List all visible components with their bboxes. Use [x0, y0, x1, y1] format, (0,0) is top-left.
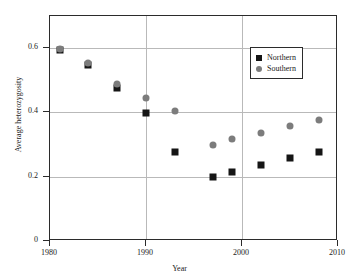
data-point-northern — [287, 154, 294, 161]
y-tick-label: 0 — [34, 236, 38, 244]
legend-item-label: Southern — [267, 64, 296, 73]
circle-marker-icon — [256, 66, 262, 72]
gridline-vertical — [242, 16, 243, 239]
data-point-southern — [258, 130, 265, 137]
chart-figure: 00.20.40.6 1980199020002010 Average hete… — [0, 0, 359, 280]
data-point-northern — [143, 109, 150, 116]
y-axis-title: Average heterozygosity — [14, 35, 23, 195]
legend-item-southern: Southern — [256, 63, 296, 74]
x-axis-title: Year — [0, 264, 359, 273]
gridline-vertical — [146, 16, 147, 239]
data-point-southern — [85, 60, 92, 67]
x-tick-mark — [241, 240, 242, 246]
data-point-southern — [114, 81, 121, 88]
gridline-horizontal — [50, 177, 336, 178]
x-tick-mark — [49, 240, 50, 246]
data-point-southern — [229, 135, 236, 142]
data-point-southern — [315, 117, 322, 124]
x-tick-mark — [145, 240, 146, 246]
x-tick-label: 2000 — [233, 248, 249, 257]
data-point-northern — [210, 174, 217, 181]
chart-legend: NorthernSouthern — [250, 47, 303, 79]
data-point-southern — [287, 122, 294, 129]
y-tick-label: 0.2 — [28, 172, 38, 180]
x-tick-mark — [337, 240, 338, 246]
y-tick-label: 0.6 — [28, 43, 38, 51]
legend-item-northern: Northern — [256, 52, 296, 63]
x-tick-label: 1990 — [137, 248, 153, 257]
legend-item-label: Northern — [267, 53, 296, 62]
data-point-northern — [229, 168, 236, 175]
data-point-southern — [210, 141, 217, 148]
x-tick-label: 2010 — [329, 248, 345, 257]
data-point-northern — [258, 162, 265, 169]
data-point-southern — [171, 107, 178, 114]
data-point-southern — [143, 94, 150, 101]
data-point-northern — [171, 148, 178, 155]
square-marker-icon — [256, 55, 262, 61]
y-tick-label: 0.4 — [28, 107, 38, 115]
gridline-horizontal — [50, 112, 336, 113]
data-point-northern — [315, 148, 322, 155]
data-point-southern — [56, 46, 63, 53]
x-tick-label: 1980 — [41, 248, 57, 257]
